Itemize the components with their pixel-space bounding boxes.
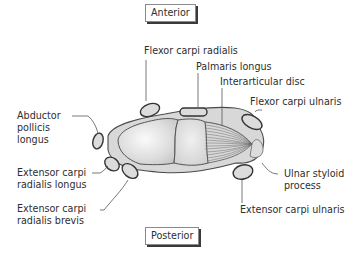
label-palmaris-longus: Palmaris longus: [196, 61, 272, 73]
label-extensor-carpi-radialis-brevis: Extensor carpi radialis brevis: [17, 203, 86, 227]
label-extensor-carpi-ulnaris: Extensor carpi ulnaris: [240, 204, 345, 216]
label-flexor-carpi-radialis: Flexor carpi radialis: [144, 45, 238, 57]
label-abductor-pollicis-longus: Abductor pollicis longus: [17, 110, 61, 146]
label-ulnar-styloid-process: Ulnar styloid process: [284, 168, 344, 192]
label-interarticular-disc: Interarticular disc: [220, 76, 305, 88]
posterior-label: Posterior: [145, 227, 199, 245]
radius-ulnar-segment: [174, 119, 208, 165]
tendon-palmaris-longus: [180, 108, 207, 116]
label-flexor-carpi-ulnaris: Flexor carpi ulnaris: [250, 96, 341, 108]
anterior-label: Anterior: [145, 4, 196, 22]
tendon-extensor-carpi-ulnaris: [232, 163, 255, 182]
label-extensor-carpi-radialis-longus: Extensor carpi radialis longus: [17, 167, 87, 191]
tendon-abductor-pollicis-longus: [91, 132, 105, 150]
